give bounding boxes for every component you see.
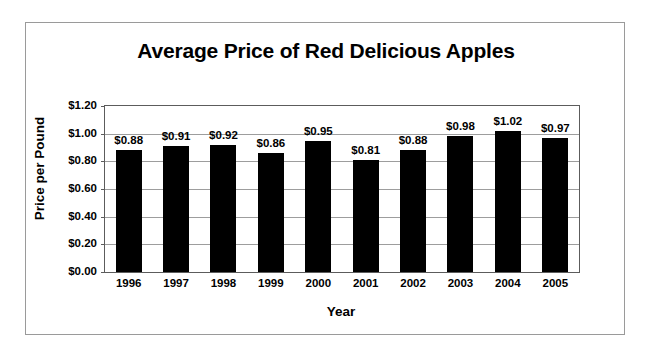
bar-value-label: $0.86: [247, 137, 294, 149]
chart-title: Average Price of Red Delicious Apples: [26, 39, 626, 63]
x-axis-tick-label: 1996: [105, 277, 152, 289]
bar-slot: $0.88: [105, 106, 152, 272]
x-axis-tick-label: 2000: [295, 277, 342, 289]
y-axis-tick-label: $0.40: [27, 210, 97, 222]
y-axis-tick-label: $0.60: [27, 182, 97, 194]
bar[interactable]: [542, 138, 568, 272]
y-axis-tick: [101, 272, 105, 273]
bar[interactable]: [400, 150, 426, 272]
bar-value-label: $0.91: [152, 130, 199, 142]
bar-slot: $0.86: [247, 106, 294, 272]
x-axis-tick-label: 2004: [484, 277, 531, 289]
bar-slot: $1.02: [484, 106, 531, 272]
bar-slot: $0.97: [532, 106, 579, 272]
x-axis-tick-label: 2001: [342, 277, 389, 289]
bar-slot: $0.81: [342, 106, 389, 272]
bar-value-label: $0.88: [389, 134, 436, 146]
y-axis-tick-label: $0.00: [27, 265, 97, 277]
x-axis-tick-label: 2002: [389, 277, 436, 289]
bar-slot: $0.95: [295, 106, 342, 272]
bar[interactable]: [495, 131, 521, 272]
bar-value-label: $0.95: [295, 125, 342, 137]
y-axis-tick-label: $0.20: [27, 237, 97, 249]
bar-slot: $0.92: [200, 106, 247, 272]
x-axis-tick-label: 1999: [247, 277, 294, 289]
bar[interactable]: [353, 160, 379, 272]
x-axis-tick-label: 2005: [532, 277, 579, 289]
bar-value-label: $0.97: [532, 122, 579, 134]
bar-slot: $0.98: [437, 106, 484, 272]
bar[interactable]: [163, 146, 189, 272]
bar-series: $0.88$0.91$0.92$0.86$0.95$0.81$0.88$0.98…: [105, 106, 579, 272]
x-axis-title: Year: [104, 304, 578, 319]
bar[interactable]: [305, 141, 331, 272]
bar[interactable]: [210, 145, 236, 272]
bar[interactable]: [116, 150, 142, 272]
y-axis-tick-label: $1.00: [27, 127, 97, 139]
chart-figure-frame: Average Price of Red Delicious Apples Pr…: [25, 22, 625, 335]
bar-value-label: $0.88: [105, 134, 152, 146]
bar-value-label: $0.81: [342, 144, 389, 156]
bar-slot: $0.91: [152, 106, 199, 272]
y-axis-title: Price per Pound: [32, 89, 47, 249]
x-axis-tick-label: 1998: [200, 277, 247, 289]
bar[interactable]: [447, 136, 473, 272]
plot-area: $1.20$1.00$0.80$0.60$0.40$0.20$0.00 $0.8…: [104, 105, 580, 273]
bar-slot: $0.88: [389, 106, 436, 272]
bar[interactable]: [258, 153, 284, 272]
x-axis-tick-label: 2003: [437, 277, 484, 289]
bar-value-label: $1.02: [484, 115, 531, 127]
x-axis-tick-label: 1997: [152, 277, 199, 289]
y-axis-tick-label: $1.20: [27, 99, 97, 111]
bar-value-label: $0.92: [200, 129, 247, 141]
y-axis-tick-label: $0.80: [27, 154, 97, 166]
bar-value-label: $0.98: [437, 120, 484, 132]
